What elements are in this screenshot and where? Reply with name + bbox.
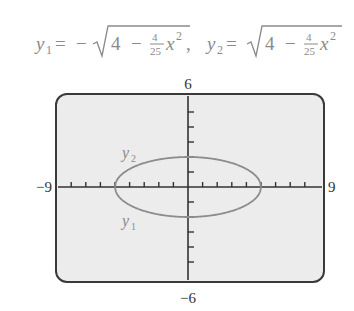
xmin-label: −9: [36, 179, 52, 195]
calculator-graph: 6 −6 −9 9 y 2 y 1: [0, 0, 354, 311]
curve-label-y1-sub: 1: [131, 221, 136, 232]
xmax-label: 9: [328, 179, 336, 195]
ymin-label: −6: [180, 290, 196, 306]
curve-label-y2-sub: 2: [131, 153, 136, 164]
curve-label-y2: y: [120, 144, 130, 162]
graph-screen-frame: [56, 94, 324, 282]
ymax-label: 6: [184, 76, 192, 92]
curve-label-y1: y: [120, 212, 130, 230]
